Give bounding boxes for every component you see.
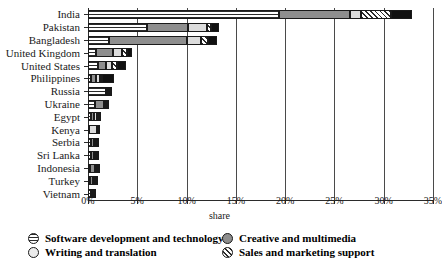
- y-axis-category-label: United States: [21, 60, 80, 71]
- x-tick-label: 35%: [424, 196, 442, 206]
- bar-segment-writing: [113, 48, 122, 57]
- bar-segment-sales: [201, 36, 208, 45]
- gridline: [384, 8, 385, 200]
- bar-segment-software: [88, 100, 95, 109]
- y-axis-category-label: Egypt: [54, 111, 80, 122]
- bar-segment-software: [88, 10, 279, 19]
- x-tick-label: 5%: [131, 196, 144, 206]
- gridline: [334, 8, 335, 200]
- x-tick-label: 20%: [276, 196, 294, 206]
- bar-segment-software: [88, 61, 98, 70]
- legend-column-2: Creative and multimedia Sales and market…: [222, 231, 374, 259]
- bar-segment-other: [98, 125, 100, 134]
- bar-segment-other: [94, 189, 96, 198]
- y-axis-category-label: Kenya: [51, 124, 80, 135]
- bar-segment-sales: [361, 10, 391, 19]
- legend-label-writing: Writing and translation: [45, 246, 157, 258]
- y-axis-category-label: Russia: [51, 86, 80, 97]
- bar-segment-creative: [96, 48, 113, 57]
- bar-segment-creative: [279, 10, 350, 19]
- bar-segment-other: [97, 151, 99, 160]
- bar-segment-other: [102, 74, 113, 83]
- y-axis-category-label: Sri Lanka: [37, 150, 80, 161]
- bar-segment-other: [211, 23, 219, 32]
- bar-segment-writing: [188, 23, 208, 32]
- legend-label-sales: Sales and marketing support: [239, 246, 374, 258]
- y-axis-category-label: United Kingdom: [6, 47, 80, 58]
- bar-segment-other: [97, 138, 99, 147]
- y-axis-category-label: Turkey: [49, 175, 80, 186]
- bar-segment-creative: [95, 100, 104, 109]
- y-axis-category-label: Philippines: [30, 73, 80, 84]
- bar-segment-creative: [98, 61, 106, 70]
- x-axis-title: share: [0, 210, 439, 221]
- x-tick-label: 0%: [81, 196, 94, 206]
- bar-segment-other: [117, 61, 126, 70]
- legend-swatch-creative-icon: [222, 233, 233, 244]
- y-axis-category-label: Vietnam: [43, 188, 80, 199]
- y-axis-category-label: Serbia: [52, 137, 80, 148]
- bar-segment-software: [88, 48, 96, 57]
- bar-segment-writing: [187, 36, 202, 45]
- x-tick-label: 30%: [375, 196, 393, 206]
- y-axis-category-label: Ukraine: [45, 99, 80, 110]
- bar-segment-other: [208, 36, 217, 45]
- bar-segment-software: [88, 87, 106, 96]
- bar-segment-other: [391, 10, 413, 19]
- legend-item-software[interactable]: Software development and technology: [28, 231, 224, 245]
- x-tick-label: 10%: [177, 196, 195, 206]
- bar-segment-other: [107, 100, 109, 109]
- bar-segment-creative: [109, 36, 187, 45]
- legend-item-creative[interactable]: Creative and multimedia: [222, 231, 374, 245]
- plot-area: [88, 8, 433, 200]
- bar-segment-other: [99, 112, 101, 121]
- gridline: [236, 8, 237, 200]
- gridline: [433, 8, 434, 200]
- bar-segment-writing: [350, 10, 361, 19]
- bar-segment-other: [98, 164, 100, 173]
- legend-column-1: Software development and technology Writ…: [28, 231, 224, 259]
- bar-segment-software: [88, 23, 147, 32]
- y-axis-category-label: India: [57, 9, 80, 20]
- y-axis-category-label: Pakistan: [43, 22, 80, 33]
- gridline: [285, 8, 286, 200]
- legend-label-creative: Creative and multimedia: [239, 232, 356, 244]
- legend-label-software: Software development and technology: [45, 232, 224, 244]
- y-axis-category-label: Bangladesh: [29, 35, 80, 46]
- x-tick-label: 25%: [325, 196, 343, 206]
- y-axis-labels: IndiaPakistanBangladeshUnited KingdomUni…: [0, 8, 85, 200]
- legend-swatch-sales-icon: [222, 247, 233, 258]
- bar-segment-writing: [89, 125, 96, 134]
- bar-segment-other: [96, 176, 98, 185]
- bar-segment-software: [88, 36, 109, 45]
- legend-item-sales[interactable]: Sales and marketing support: [222, 245, 374, 259]
- legend-swatch-software-icon: [28, 233, 39, 244]
- y-axis-category-label: Indonesia: [37, 163, 80, 174]
- bar-segment-creative: [147, 23, 187, 32]
- legend-item-writing[interactable]: Writing and translation: [28, 245, 224, 259]
- legend: Software development and technology Writ…: [0, 231, 439, 260]
- x-tick-label: 15%: [227, 196, 245, 206]
- bar-segment-other: [127, 48, 132, 57]
- bar-segment-other: [110, 87, 112, 96]
- legend-swatch-writing-icon: [28, 247, 39, 258]
